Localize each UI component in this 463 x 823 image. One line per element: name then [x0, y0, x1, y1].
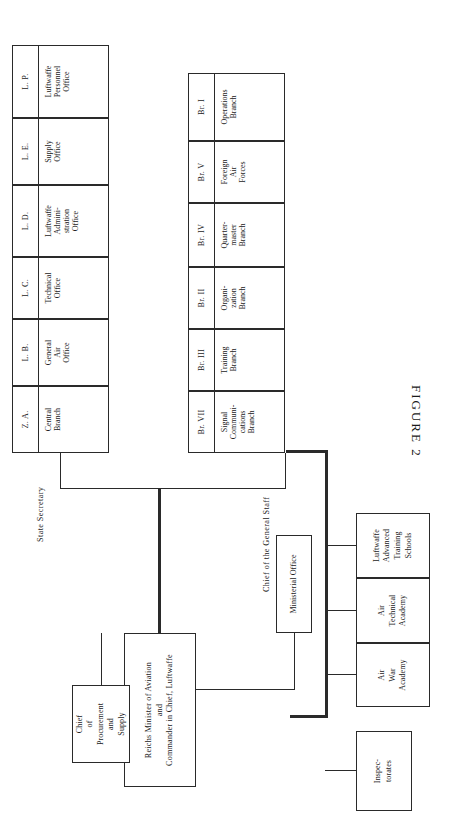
cell-br-v-body: Foreign Air Forces: [215, 142, 284, 202]
cell-br-vii[interactable]: Br. VII Signal Communi- cations Branch: [188, 391, 285, 453]
cell-br-vii-code: Br. VII: [189, 392, 215, 452]
cell-l-p-body: Luftwaffe Personnel Office: [39, 46, 108, 117]
connector-state-secretary-spine: [60, 488, 160, 489]
cell-l-p-code: L. P.: [13, 46, 39, 117]
cell-l-b-code: L. B.: [13, 320, 39, 385]
connector-state-secretary-stub: [60, 453, 61, 489]
connector-lower-bus-drop: [286, 450, 328, 453]
school-2-line-1: Air: [377, 605, 388, 616]
node-reichs-minister[interactable]: Reichs Minister of Aviation and Commande…: [124, 633, 196, 787]
root-line-2: and: [155, 704, 166, 716]
root-line-3: Commander in Chief, Luftwaffe: [165, 654, 176, 766]
school-2-line-2: Technical: [388, 595, 399, 627]
figure-caption: FIGURE 2: [408, 385, 424, 458]
cell-br-v-code: Br. V: [189, 142, 215, 202]
org-chart-stage: Reichs Minister of Aviation and Commande…: [0, 0, 463, 823]
group-label-general-staff: Chief of the General Staff: [262, 495, 271, 594]
node-ministerial-office[interactable]: Ministerial Office: [276, 535, 312, 633]
cell-z-a-body: Central Branch: [39, 387, 108, 452]
node-air-war-academy[interactable]: Air War Academy: [356, 643, 430, 707]
connector-general-staff-spine: [158, 488, 286, 489]
cell-br-i-body: Operations Branch: [215, 74, 284, 140]
cell-l-b[interactable]: L. B. General Air Office: [12, 319, 109, 386]
node-air-technical-academy[interactable]: Air Technical Academy: [356, 578, 430, 643]
cell-br-i-code: Br. I: [189, 74, 215, 140]
procurement-line-1: Chief: [75, 715, 86, 733]
cell-l-p[interactable]: L. P. Luftwaffe Personnel Office: [12, 45, 109, 118]
cell-br-ii-code: Br. II: [189, 268, 215, 328]
node-luftwaffe-advanced-training-schools[interactable]: Luftwaffe Advanced Training Schools: [356, 513, 430, 578]
connector-general-staff-stub: [285, 453, 286, 489]
cell-br-iii-code: Br. III: [189, 330, 215, 390]
cell-br-iii[interactable]: Br. III Training Branch: [188, 329, 285, 391]
school-3-line-3: Training: [393, 531, 404, 559]
connector-lower-bus-rise: [290, 715, 327, 718]
connector-procurement: [101, 633, 102, 685]
school-3-line-4: Schools: [404, 532, 415, 558]
connector-school-3: [325, 545, 356, 546]
cell-l-e-body: Supply Office: [39, 119, 108, 184]
cell-br-vii-body: Signal Communi- cations Branch: [215, 392, 284, 452]
cell-z-a[interactable]: Z. A. Central Branch: [12, 386, 109, 453]
cell-br-iv-body: Quarter- master Branch: [215, 204, 284, 266]
ministerial-office-line-1: Ministerial Office: [289, 554, 300, 613]
connector-school-1: [325, 674, 356, 675]
cell-l-b-body: General Air Office: [39, 320, 108, 385]
connector-root-trunk: [158, 488, 161, 633]
connector-ministerial-vert: [196, 689, 295, 690]
connector-inspectorates: [325, 770, 356, 771]
cell-z-a-code: Z. A.: [13, 387, 39, 452]
cell-l-e[interactable]: L. E. Supply Office: [12, 118, 109, 185]
connector-school-2: [325, 610, 356, 611]
procurement-line-2: of: [85, 721, 96, 728]
cell-l-e-code: L. E.: [13, 119, 39, 184]
school-1-line-2: War: [388, 668, 399, 681]
cell-br-iii-body: Training Branch: [215, 330, 284, 390]
cell-l-d-body: Luftwaffe Admini- stration Office: [39, 186, 108, 256]
school-1-line-3: Academy: [398, 659, 409, 690]
school-2-line-3: Academy: [398, 595, 409, 626]
procurement-line-3: Procurement: [96, 703, 107, 745]
inspectorates-line-1: Inspec-: [373, 759, 384, 783]
cell-l-c[interactable]: L. C. Technical Office: [12, 257, 109, 319]
group-label-state-secretary: State Secretary: [36, 485, 45, 544]
procurement-line-5: Supply: [117, 712, 128, 735]
school-1-line-1: Air: [377, 670, 388, 681]
connector-ministerial-horz: [294, 633, 295, 690]
cell-l-d-code: L. D.: [13, 186, 39, 256]
cell-br-ii-body: Organi- zation Branch: [215, 268, 284, 328]
cell-br-ii[interactable]: Br. II Organi- zation Branch: [188, 267, 285, 329]
inspectorates-line-2: torates: [384, 760, 395, 782]
school-3-line-1: Luftwaffe: [372, 529, 383, 562]
cell-br-iv-code: Br. IV: [189, 204, 215, 266]
cell-l-c-body: Technical Office: [39, 258, 108, 318]
connector-lower-bus: [325, 452, 328, 718]
cell-br-iv[interactable]: Br. IV Quarter- master Branch: [188, 203, 285, 267]
cell-br-i[interactable]: Br. I Operations Branch: [188, 73, 285, 141]
school-3-line-2: Advanced: [382, 529, 393, 562]
cell-l-d[interactable]: L. D. Luftwaffe Admini- stration Office: [12, 185, 109, 257]
node-inspectorates[interactable]: Inspec- torates: [356, 731, 412, 811]
root-line-1: Reichs Minister of Aviation: [144, 662, 155, 758]
procurement-line-4: and: [106, 718, 117, 730]
cell-br-v[interactable]: Br. V Foreign Air Forces: [188, 141, 285, 203]
cell-l-c-code: L. C.: [13, 258, 39, 318]
node-chief-procurement-supply[interactable]: Chief of Procurement and Supply: [72, 685, 130, 763]
